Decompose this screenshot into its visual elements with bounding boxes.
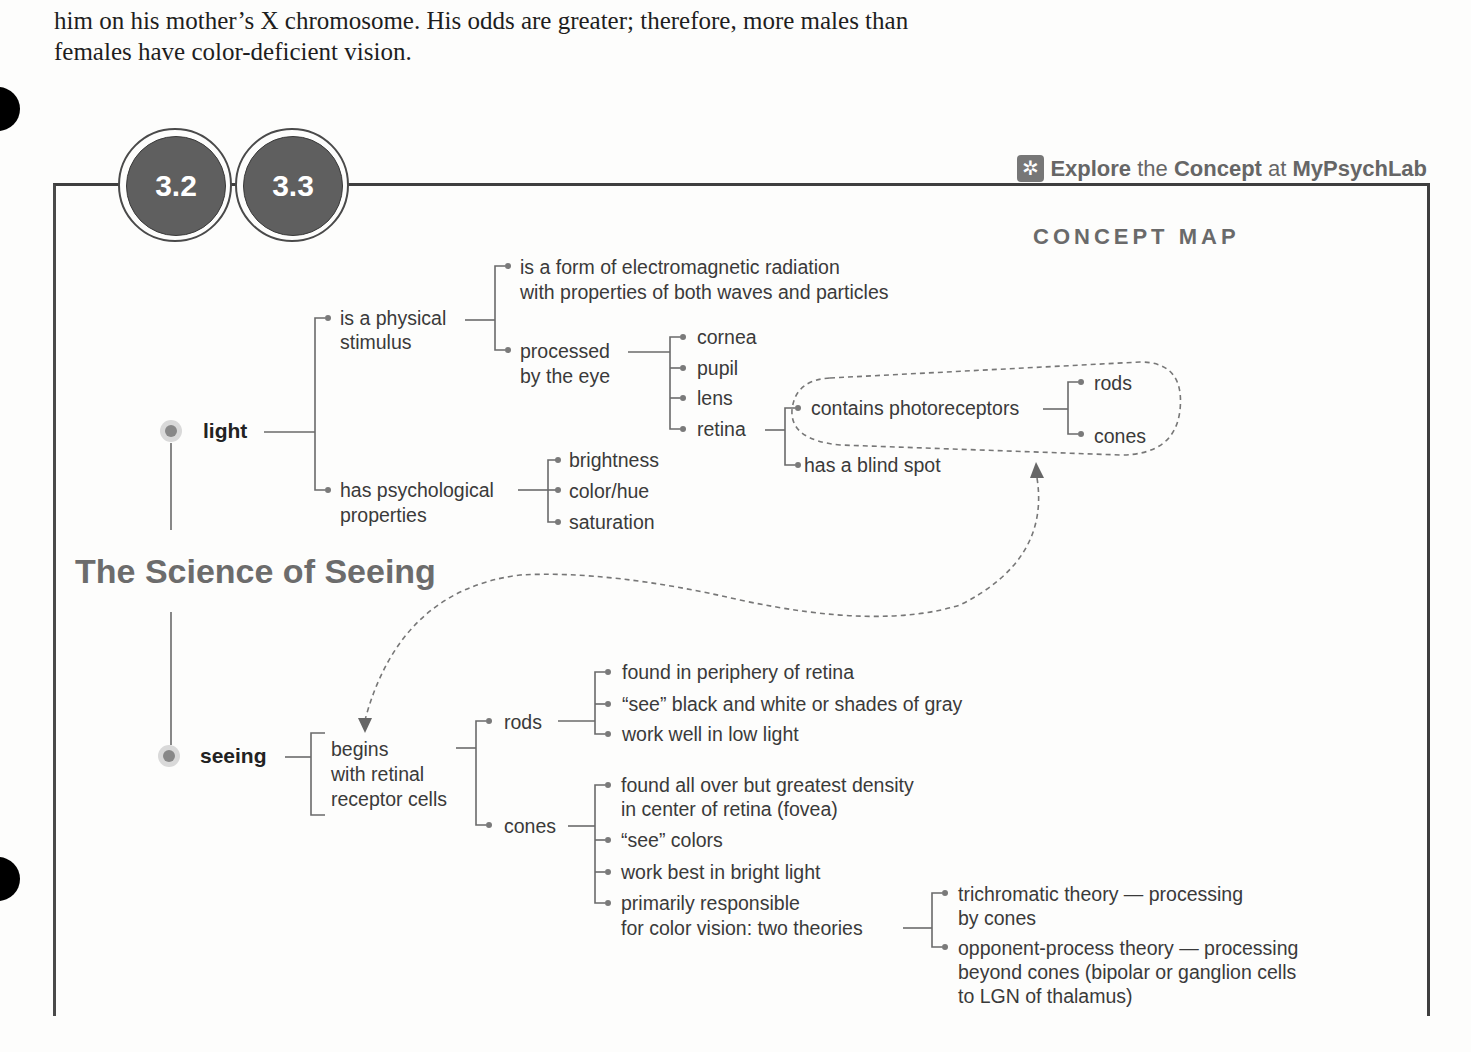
trichromatic-line1: trichromatic theory — processing <box>958 882 1243 906</box>
processed-by-eye-line2: by the eye <box>520 364 610 388</box>
psych-saturation: saturation <box>569 510 655 534</box>
trichromatic-line2: by cones <box>958 906 1036 930</box>
eye-part-pupil: pupil <box>697 356 738 380</box>
begins-line2: with retinal <box>331 762 424 786</box>
cones-item-3: work best in bright light <box>621 860 820 884</box>
rods-item-1: found in periphery of retina <box>622 660 854 684</box>
light-label: light <box>203 419 247 443</box>
opponent-process-line2: beyond cones (bipolar or ganglion cells <box>958 960 1296 984</box>
em-radiation-line2: with properties of both waves and partic… <box>520 280 889 304</box>
blind-spot: has a blind spot <box>804 453 941 477</box>
physical-stimulus-line2: stimulus <box>340 330 412 354</box>
cones-item-4b: for color vision: two theories <box>621 916 863 940</box>
psych-color-hue: color/hue <box>569 479 649 503</box>
cones-item-4a: primarily responsible <box>621 891 800 915</box>
rods-label: rods <box>504 710 542 734</box>
eye-part-retina: retina <box>697 417 746 441</box>
seeing-label: seeing <box>200 744 267 768</box>
rods-item-3: work well in low light <box>622 722 799 746</box>
processed-by-eye-line1: processed <box>520 339 610 363</box>
photoreceptor-cones: cones <box>1094 424 1146 448</box>
contains-photoreceptors: contains photoreceptors <box>811 396 1019 420</box>
psych-brightness: brightness <box>569 448 659 472</box>
begins-line3: receptor cells <box>331 787 447 811</box>
rods-item-2: “see” black and white or shades of gray <box>622 692 962 716</box>
cones-item-1a: found all over but greatest density <box>621 773 914 797</box>
eye-part-lens: lens <box>697 386 733 410</box>
photoreceptor-rods: rods <box>1094 371 1132 395</box>
physical-stimulus-line1: is a physical <box>340 306 446 330</box>
seeing-node-icon <box>158 745 180 767</box>
psychological-properties-line2: properties <box>340 503 427 527</box>
opponent-process-line1: opponent-process theory — processing <box>958 936 1298 960</box>
concept-map-title: The Science of Seeing <box>75 552 436 591</box>
eye-part-cornea: cornea <box>697 325 757 349</box>
begins-line1: begins <box>331 737 388 761</box>
psychological-properties-line1: has psychological <box>340 478 494 502</box>
cones-label: cones <box>504 814 556 838</box>
opponent-process-line3: to LGN of thalamus) <box>958 984 1133 1008</box>
light-node-icon <box>160 420 182 442</box>
cones-item-2: “see” colors <box>621 828 723 852</box>
em-radiation-line1: is a form of electromagnetic radiation <box>520 255 840 279</box>
cones-item-1b: in center of retina (fovea) <box>621 797 838 821</box>
